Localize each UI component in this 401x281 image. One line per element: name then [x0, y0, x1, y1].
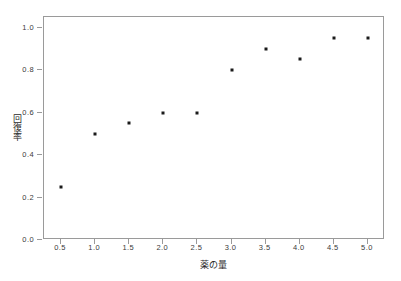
plot-area: [44, 17, 383, 238]
data-point: [264, 47, 267, 50]
x-axis-tick-label: 5.0: [361, 243, 373, 252]
data-point: [298, 58, 301, 61]
scatter-plot-figure: 回復率 0.00.20.40.60.81.0 0.51.01.52.02.53.…: [0, 0, 401, 281]
y-axis-tick-mark: [37, 69, 42, 70]
x-axis-tick-labels: 0.51.01.52.02.53.03.54.04.55.0: [43, 243, 384, 257]
x-axis-tick-label: 1.5: [122, 243, 134, 252]
data-point: [60, 185, 63, 188]
y-axis-tick-label: 1.0: [22, 22, 34, 31]
y-axis-tick-mark: [37, 27, 42, 28]
y-axis-tick-labels: 0.00.20.40.60.81.0: [0, 16, 34, 239]
x-axis-tick-label: 0.5: [54, 243, 66, 252]
x-axis-tick-label: 1.0: [88, 243, 100, 252]
x-axis-title: 薬の量: [43, 258, 384, 271]
y-axis-tick-label: 0.4: [22, 150, 34, 159]
y-axis-tick-label: 0.6: [22, 107, 34, 116]
plot-frame: [43, 16, 384, 239]
y-axis-tick-mark: [37, 197, 42, 198]
y-axis-tick-label: 0.0: [22, 235, 34, 244]
y-axis-tick-mark: [37, 154, 42, 155]
data-point: [196, 111, 199, 114]
data-point: [366, 37, 369, 40]
x-axis-tick-label: 4.0: [293, 243, 305, 252]
x-axis-tick-label: 3.0: [225, 243, 237, 252]
y-axis-tick-label: 0.8: [22, 65, 34, 74]
data-point: [230, 69, 233, 72]
x-axis-tick-label: 3.5: [259, 243, 271, 252]
x-axis-tick-label: 2.0: [157, 243, 169, 252]
data-point: [332, 37, 335, 40]
y-axis-tick-mark: [37, 239, 42, 240]
data-point: [128, 122, 131, 125]
x-axis-tick-label: 4.5: [327, 243, 339, 252]
y-axis-tick-mark: [37, 112, 42, 113]
y-axis-tick-label: 0.2: [22, 192, 34, 201]
data-point: [162, 111, 165, 114]
x-axis-tick-label: 2.5: [191, 243, 203, 252]
data-point: [94, 132, 97, 135]
